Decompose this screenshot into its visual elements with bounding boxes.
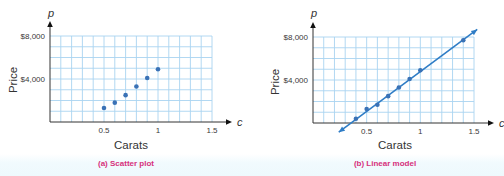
x-tick-label: 1: [418, 127, 423, 136]
axis-labels: p c $4,000 $8,000 0.5 1 1.5 Price Carats…: [7, 7, 243, 168]
data-points: [102, 67, 161, 110]
data-point: [354, 116, 359, 121]
data-point: [375, 102, 380, 107]
fit-line: [339, 29, 477, 132]
data-point: [113, 100, 118, 105]
chart-axes: [47, 21, 232, 125]
data-point: [418, 68, 423, 73]
regression-line: [339, 29, 477, 132]
data-point: [397, 85, 402, 90]
scatter-plot-chart: p c $4,000 $8,000 0.5 1 1.5 Price Carats…: [7, 7, 243, 168]
y-tick-label: $4,000: [284, 76, 309, 85]
data-point: [364, 107, 369, 112]
linear-model-chart: p c $4,000 $8,000 0.5 1 1.5 Price Carats…: [269, 7, 504, 168]
data-point: [386, 94, 391, 99]
y-tick-label: $8,000: [21, 32, 46, 41]
chart-grid: [50, 36, 212, 122]
data-point: [134, 84, 139, 89]
x-variable-label: c: [499, 117, 504, 129]
x-axis-title: Carats: [114, 139, 148, 151]
data-point: [102, 106, 107, 111]
charts-figure: p c $4,000 $8,000 0.5 1 1.5 Price Carats…: [0, 0, 504, 176]
y-tick-label: $4,000: [21, 75, 46, 84]
data-point: [407, 77, 412, 82]
data-point: [145, 76, 150, 81]
data-point: [123, 93, 128, 98]
x-tick-label: 0.5: [98, 126, 110, 135]
x-tick-label: 0.5: [361, 127, 373, 136]
x-tick-label: 1: [156, 126, 161, 135]
y-axis-arrow-icon: [47, 21, 53, 27]
y-variable-label: p: [47, 7, 54, 19]
y-axis-title: Price: [269, 69, 281, 95]
x-variable-label: c: [237, 116, 243, 128]
x-axis-title: Carats: [378, 139, 412, 151]
axis-labels: p c $4,000 $8,000 0.5 1 1.5 Price Carats…: [269, 7, 504, 168]
y-axis-arrow-icon: [310, 22, 316, 28]
data-point: [461, 38, 466, 43]
x-tick-label: 1.5: [206, 126, 218, 135]
y-axis-title: Price: [7, 67, 19, 93]
y-variable-label: p: [310, 7, 317, 19]
data-point: [156, 67, 161, 72]
chart-caption: (a) Scatter plot: [98, 159, 154, 168]
x-axis-arrow-icon: [226, 119, 232, 125]
y-tick-label: $8,000: [284, 33, 309, 42]
x-tick-label: 1.5: [468, 127, 480, 136]
x-axis-arrow-icon: [488, 120, 494, 126]
chart-caption: (b) Linear model: [354, 159, 416, 168]
